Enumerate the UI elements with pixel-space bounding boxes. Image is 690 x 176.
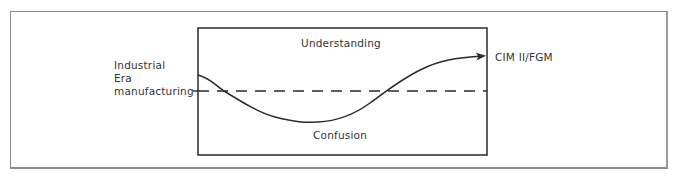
confusion-label: Confusion	[313, 129, 367, 142]
industrial-era-line-3: manufacturing	[114, 85, 194, 98]
transition-curve	[198, 56, 484, 122]
cim-fgm-label: CIM II/FGM	[495, 51, 553, 64]
industrial-era-label: Industrial Era manufacturing	[114, 59, 194, 98]
understanding-label: Understanding	[301, 37, 381, 50]
industrial-era-line-2: Era	[114, 72, 194, 85]
industrial-era-line-1: Industrial	[114, 59, 194, 72]
transition-diagram	[0, 0, 690, 176]
